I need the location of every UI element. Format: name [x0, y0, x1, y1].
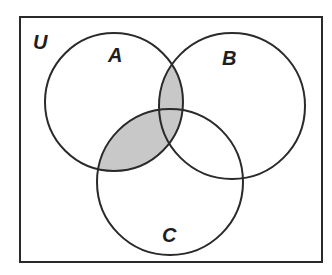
universe-label: U — [33, 31, 48, 53]
set-c-label: C — [162, 224, 177, 246]
venn-diagram: U A B C — [0, 0, 332, 275]
set-b-label: B — [222, 47, 236, 69]
set-a-label: A — [107, 44, 122, 66]
